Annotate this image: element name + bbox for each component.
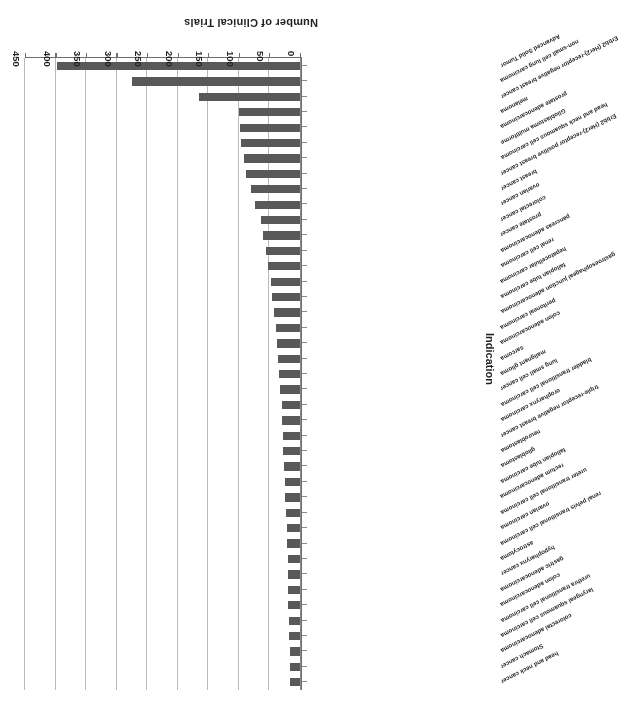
category-label: sarcoma: [500, 344, 525, 361]
x-tick-100: [239, 53, 240, 58]
bar-row: [26, 521, 300, 536]
bar: [287, 539, 300, 547]
bar-series: [26, 58, 300, 690]
category-label: non-small cell lung carcinoma: [500, 39, 581, 84]
y-tick: [302, 620, 307, 621]
bar: [280, 385, 300, 393]
category-label: glioblastoma: [500, 447, 536, 469]
x-tick-250: [147, 53, 148, 58]
x-tick-300: [116, 53, 117, 58]
bar-row: [26, 428, 300, 443]
category-label: Stomach cancer: [500, 643, 545, 670]
category-label: prostate adenocarcinoma: [500, 91, 569, 130]
y-tick: [302, 80, 307, 81]
bar: [251, 185, 300, 193]
bar: [278, 355, 300, 363]
bar: [246, 170, 300, 178]
bar-row: [26, 289, 300, 304]
category-label: fallopian tube carcinoma: [500, 262, 567, 300]
bar: [287, 524, 300, 532]
category-label: ovarian cancer: [500, 182, 541, 207]
bar: [239, 108, 300, 116]
y-tick: [302, 481, 307, 482]
category-label: gastric adenocarcinoma: [500, 555, 565, 592]
bar: [271, 278, 300, 286]
y-tick: [302, 311, 307, 312]
x-tick-200: [178, 53, 179, 58]
bar: [273, 293, 301, 301]
bar: [290, 647, 300, 655]
bar-row: [26, 628, 300, 643]
y-tick: [302, 512, 307, 513]
bar: [282, 416, 300, 424]
bar: [290, 678, 300, 686]
bar-row: [26, 382, 300, 397]
y-tick: [302, 466, 307, 467]
bar-row: [26, 182, 300, 197]
category-label: renal pelvis transitional cell carcinoma: [500, 490, 603, 546]
bar: [284, 462, 300, 470]
bar: [132, 77, 300, 85]
y-tick: [302, 342, 307, 343]
bar: [288, 601, 300, 609]
y-tick: [302, 296, 307, 297]
x-tick-label: 150: [194, 51, 205, 67]
category-label: breast cancer: [500, 168, 538, 191]
y-tick: [302, 388, 307, 389]
category-label: lung small cell cancer: [500, 358, 559, 392]
bar-row: [26, 659, 300, 674]
category-label: urethra transitional cell carcinoma: [500, 573, 591, 624]
bar-row: [26, 505, 300, 520]
category-label: melanoma: [500, 96, 530, 115]
y-tick: [302, 281, 307, 282]
y-tick: [302, 635, 307, 636]
y-tick: [302, 419, 307, 420]
bar-row: [26, 305, 300, 320]
category-label: ovarian carcinoma: [500, 501, 551, 531]
bar: [268, 262, 300, 270]
y-tick: [302, 404, 307, 405]
y-tick: [302, 589, 307, 590]
bar-row: [26, 105, 300, 120]
bar-row: [26, 274, 300, 289]
category-label: Erbb2 (Her2)-receptor negative breast ca…: [500, 34, 619, 99]
category-label: colorectal adenocarcinoma: [500, 613, 573, 654]
bar: [279, 370, 300, 378]
bar: [261, 216, 300, 224]
bar: [284, 447, 301, 455]
bar: [244, 154, 300, 162]
y-tick: [302, 265, 307, 266]
y-tick: [302, 527, 307, 528]
bar: [240, 124, 300, 132]
category-label: malignant glioma: [500, 348, 547, 376]
bar: [276, 324, 300, 332]
y-tick: [302, 435, 307, 436]
category-label: Erbb2 (Her2)-receptor positive breast ca…: [500, 112, 618, 176]
bar: [285, 478, 300, 486]
category-label: colon adenocarcinoma: [500, 310, 562, 346]
bar-row: [26, 459, 300, 474]
y-tick: [302, 573, 307, 574]
y-tick: [302, 111, 307, 112]
category-label: pancreas adenocarcinoma: [500, 213, 571, 253]
bar-row: [26, 444, 300, 459]
bar-row: [26, 582, 300, 597]
category-label: peritoneal carcinoma: [500, 297, 557, 330]
bar-row: [26, 351, 300, 366]
bar-row: [26, 89, 300, 104]
x-tick-label: 100: [225, 51, 236, 67]
bar: [199, 93, 300, 101]
bar: [289, 617, 300, 625]
category-label: colorectal cancer: [500, 194, 547, 222]
category-label: triple-receptor negative breast cancer: [500, 383, 600, 438]
bar-row: [26, 243, 300, 258]
category-label: renal cell carcinoma: [500, 237, 555, 269]
bar: [285, 493, 300, 501]
bar: [277, 339, 300, 347]
category-label: oropharynx carcinoma: [500, 388, 561, 423]
category-label: ureter transitional cell carcinoma: [500, 466, 588, 515]
bar-row: [26, 490, 300, 505]
x-tick-label: 50: [255, 51, 266, 62]
